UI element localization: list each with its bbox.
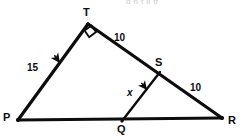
segment-TR: [88, 24, 222, 118]
vertex-label-T: T: [83, 7, 90, 18]
geometry-figure: g n t ll tr T P R S Q: [0, 0, 241, 138]
vertex-label-S: S: [155, 57, 162, 68]
length-label-PT: 15: [27, 63, 38, 73]
vertex-label-P: P: [3, 112, 10, 123]
length-label-SQ-variable: x: [127, 88, 133, 98]
vertex-dot-P: [16, 118, 20, 122]
segment-PR: [18, 118, 222, 120]
vertex-label-Q: Q: [117, 124, 126, 135]
vertex-dot-R: [220, 116, 224, 120]
length-label-TS: 10: [114, 33, 125, 43]
length-label-SR: 10: [190, 83, 201, 93]
vertex-label-R: R: [228, 115, 236, 126]
